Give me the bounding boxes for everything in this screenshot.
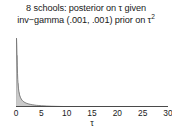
chart-title-superscript: 2	[151, 13, 155, 20]
x-tick-20: 20	[113, 108, 122, 119]
chart-title-line-2-text: inv−gamma (.001, .001) prior on τ	[17, 15, 151, 25]
x-axis-tick-labels: 051015202530	[0, 108, 172, 120]
figure-container: 8 schools: posterior on τ given inv−gamm…	[0, 0, 172, 135]
plot-area	[16, 36, 168, 107]
chart-title-line-1: 8 schools: posterior on τ given	[0, 2, 172, 14]
x-tick-10: 10	[62, 108, 71, 119]
x-tick-0: 0	[14, 108, 19, 119]
x-tick-25: 25	[138, 108, 147, 119]
x-tick-5: 5	[39, 108, 44, 119]
posterior-density-curve	[16, 36, 168, 107]
chart-title-line-2: inv−gamma (.001, .001) prior on τ2	[0, 14, 172, 26]
chart-title: 8 schools: posterior on τ given inv−gamm…	[0, 2, 172, 26]
x-axis-line	[16, 106, 168, 107]
x-axis-title: τ	[90, 118, 94, 128]
x-tick-30: 30	[163, 108, 172, 119]
curve-vertical-hatching	[18, 55, 169, 107]
